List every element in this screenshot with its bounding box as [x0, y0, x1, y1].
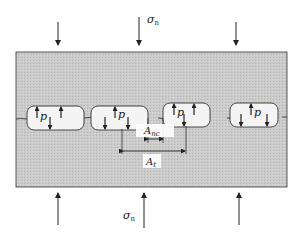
top-normal-stress-label: σn	[147, 13, 160, 27]
bottom-stress-arrows	[58, 193, 239, 228]
pore-pressure-label: p	[254, 106, 261, 119]
pore-pressure-label: p	[177, 106, 184, 119]
pore-3: p	[163, 103, 210, 127]
pore-pressure-label: p	[118, 108, 125, 121]
pore-1: p	[27, 106, 84, 130]
pore-pressure-label: p	[40, 110, 47, 123]
pore-4: p	[230, 103, 278, 127]
diagram-canvas: σn σn p p p p	[0, 0, 300, 235]
bottom-normal-stress-label: σn	[123, 209, 136, 223]
